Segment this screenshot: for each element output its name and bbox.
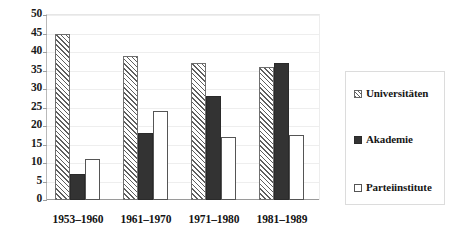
bar-parteiinstitute-0 bbox=[85, 159, 100, 200]
bar-universitaeten-2 bbox=[191, 63, 206, 200]
y-axis-tick-label: 0 bbox=[16, 193, 42, 205]
x-axis-tick-label: 1961–1970 bbox=[121, 213, 172, 225]
bar-parteiinstitute-2 bbox=[221, 137, 236, 200]
legend-item-label: Parteiinstitute bbox=[366, 182, 432, 193]
y-axis-tick-label: 15 bbox=[16, 138, 42, 150]
y-axis-tick-label: 30 bbox=[16, 82, 42, 94]
x-axis-tick-label: 1953–1960 bbox=[53, 213, 104, 225]
y-axis-tick-label: 40 bbox=[16, 45, 42, 57]
legend-item-label: Akademie bbox=[366, 134, 413, 145]
y-axis-tick-label: 5 bbox=[16, 175, 42, 187]
bar-akademie-1 bbox=[138, 133, 153, 200]
chart-screenshot: 50454035302520151050 1953–19601961–19701… bbox=[0, 0, 452, 241]
legend-swatch-icon bbox=[354, 90, 362, 98]
bar-akademie-2 bbox=[206, 96, 221, 200]
y-axis: 50454035302520151050 bbox=[10, 14, 42, 200]
bar-universitaeten-3 bbox=[259, 67, 274, 200]
y-tick-mark-0 bbox=[43, 200, 47, 201]
bar-universitaeten-1 bbox=[123, 56, 138, 200]
bar-group bbox=[115, 15, 183, 200]
x-axis-tick-label: 1971–1980 bbox=[189, 213, 240, 225]
y-axis-tick-label: 35 bbox=[16, 64, 42, 76]
x-axis-tick-label: 1981–1989 bbox=[257, 213, 308, 225]
x-axis: 1953–19601961–19701971–19801981–1989 bbox=[46, 205, 320, 235]
y-axis-tick-label: 25 bbox=[16, 101, 42, 113]
bar-group bbox=[47, 15, 115, 200]
y-axis-tick-label: 20 bbox=[16, 119, 42, 131]
bar-akademie-0 bbox=[70, 174, 85, 200]
legend-item-parteiinstitute: Parteiinstitute bbox=[354, 182, 432, 193]
chart-legend: UniversitätenAkademieParteiinstitute bbox=[345, 71, 445, 205]
bar-akademie-3 bbox=[274, 63, 289, 200]
bar-group bbox=[251, 15, 319, 200]
y-axis-tick-label: 10 bbox=[16, 156, 42, 168]
legend-item-label: Universitäten bbox=[366, 88, 428, 99]
legend-item-universitaeten: Universitäten bbox=[354, 88, 428, 99]
legend-swatch-icon bbox=[354, 184, 362, 192]
bar-universitaeten-0 bbox=[55, 34, 70, 201]
bar-parteiinstitute-1 bbox=[153, 111, 168, 200]
y-axis-tick-label: 45 bbox=[16, 27, 42, 39]
y-axis-tick-label: 50 bbox=[16, 8, 42, 20]
legend-item-akademie: Akademie bbox=[354, 134, 413, 145]
bar-group bbox=[183, 15, 251, 200]
plot-area bbox=[46, 14, 320, 200]
legend-swatch-icon bbox=[354, 136, 362, 144]
bar-parteiinstitute-3 bbox=[289, 135, 304, 200]
